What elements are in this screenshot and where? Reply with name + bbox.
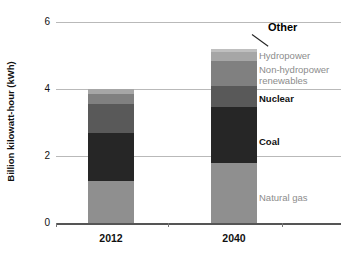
bar-segment-nuclear[interactable] xyxy=(88,104,134,132)
label-non-hydropower-renewables-line1: Non-hydropower xyxy=(259,64,329,75)
label-non-hydropower-renewables-line2: renewables xyxy=(259,75,308,86)
bar-segment-natural-gas[interactable] xyxy=(211,163,257,223)
bar-2040[interactable] xyxy=(211,22,257,223)
label-natural-gas: Natural gas xyxy=(259,192,308,203)
bar-segment-hydropower[interactable] xyxy=(211,52,257,60)
y-tick-label-4: 4 xyxy=(28,83,50,94)
x-tick-label-2012: 2012 xyxy=(76,232,146,244)
label-nuclear: Nuclear xyxy=(259,93,294,104)
y-tick-label-2: 2 xyxy=(28,150,50,161)
bar-segment-hydropower[interactable] xyxy=(88,89,134,94)
bar-segment-coal[interactable] xyxy=(88,133,134,182)
bar-segment-coal[interactable] xyxy=(211,107,257,162)
y-axis-title-text: Billion kilowatt-hour (kWh) xyxy=(5,61,16,181)
label-hydropower: Hydropower xyxy=(259,50,310,61)
bar-2012[interactable] xyxy=(88,22,134,223)
x-axis-tick-left xyxy=(56,223,57,227)
bar-segment-other[interactable] xyxy=(211,49,257,52)
bar-segment-non-hydropower-renewables[interactable] xyxy=(88,94,134,104)
x-tick-label-2040: 2040 xyxy=(199,232,269,244)
x-axis-tick-middle xyxy=(168,223,169,227)
bar-segment-natural-gas[interactable] xyxy=(88,181,134,223)
x-axis-tick-right xyxy=(282,223,283,227)
bar-segment-non-hydropower-renewables[interactable] xyxy=(211,61,257,86)
y-axis-title: Billion kilowatt-hour (kWh) xyxy=(2,36,18,206)
label-coal: Coal xyxy=(259,136,280,147)
y-tick-label-0: 0 xyxy=(28,217,50,228)
x-axis-line xyxy=(56,223,341,225)
bar-segment-nuclear[interactable] xyxy=(211,86,257,108)
y-tick-label-6: 6 xyxy=(28,16,50,27)
stacked-bar-chart: Billion kilowatt-hour (kWh) 6 4 2 0 2012… xyxy=(0,0,357,262)
label-other: Other xyxy=(268,22,297,33)
